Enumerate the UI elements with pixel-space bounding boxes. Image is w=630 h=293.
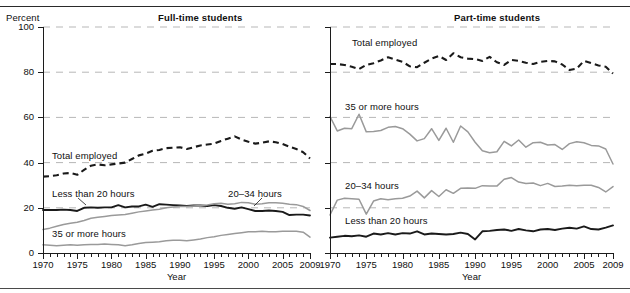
x-tick-1994 xyxy=(504,253,505,257)
x-tick-label-1970: 1970 xyxy=(32,259,53,270)
x-tick-1987 xyxy=(453,253,454,257)
x-tick-1989 xyxy=(468,253,469,257)
y-tick-mark-60 xyxy=(38,117,43,118)
x-tick-2006 xyxy=(289,253,290,257)
annotation-full-time-20-34-hours: 20–34 hours xyxy=(228,188,282,199)
x-tick-1986 xyxy=(153,253,154,257)
bottom-divider-rule xyxy=(0,288,630,289)
x-tick-1973 xyxy=(64,253,65,257)
x-tick-label-2005: 2005 xyxy=(272,259,293,270)
x-tick-2001 xyxy=(255,253,256,257)
x-tick-1978 xyxy=(388,253,389,257)
x-tick-1977 xyxy=(91,253,92,257)
x-tick-label-1990: 1990 xyxy=(465,259,486,270)
y-tick-mark-100 xyxy=(38,27,43,28)
x-tick-2004 xyxy=(577,253,578,257)
x-tick-label-1975: 1975 xyxy=(67,259,88,270)
annotation-full-time-35-or-more-hours: 35 or more hours xyxy=(52,228,126,239)
x-tick-1976 xyxy=(374,253,375,257)
x-tick-1983 xyxy=(424,253,425,257)
x-tick-1982 xyxy=(125,253,126,257)
chart-panel-full-time xyxy=(43,27,310,253)
y-tick-label-80: 80 xyxy=(4,66,34,77)
x-axis-line-part-time xyxy=(330,253,613,254)
x-tick-label-1980: 1980 xyxy=(392,259,413,270)
y-tick-label-40: 40 xyxy=(4,157,34,168)
annotation-full-time-total-employed: Total employed xyxy=(52,150,117,161)
x-tick-2004 xyxy=(276,253,277,257)
x-tick-1982 xyxy=(417,253,418,257)
x-tick-1971 xyxy=(50,253,51,257)
y-tick-mark-right-20 xyxy=(325,208,330,209)
x-tick-1992 xyxy=(194,253,195,257)
x-tick-1988 xyxy=(461,253,462,257)
x-tick-1986 xyxy=(446,253,447,257)
x-tick-1972 xyxy=(57,253,58,257)
x-tick-2008 xyxy=(303,253,304,257)
series-line-total-employed xyxy=(330,53,613,73)
x-tick-2007 xyxy=(598,253,599,257)
x-tick-1971 xyxy=(337,253,338,257)
x-tick-label-1980: 1980 xyxy=(101,259,122,270)
x-tick-1993 xyxy=(497,253,498,257)
x-tick-1974 xyxy=(70,253,71,257)
y-tick-mark-40 xyxy=(38,163,43,164)
x-tick-2008 xyxy=(606,253,607,257)
y-tick-mark-right-100 xyxy=(325,27,330,28)
x-tick-1979 xyxy=(105,253,106,257)
x-tick-1996 xyxy=(519,253,520,257)
annotation-part-time-less-than-20-hours: Less than 20 hours xyxy=(345,215,428,226)
x-tick-1997 xyxy=(228,253,229,257)
x-tick-label-2000: 2000 xyxy=(238,259,259,270)
panel-title-full-time: Full-time students xyxy=(158,12,243,23)
x-tick-1981 xyxy=(118,253,119,257)
series-line-less-than-20-hours xyxy=(43,204,310,215)
x-tick-2007 xyxy=(296,253,297,257)
x-tick-1998 xyxy=(533,253,534,257)
x-tick-label-2009: 2009 xyxy=(602,259,623,270)
plot-area-full-time xyxy=(43,27,310,253)
x-tick-label-2009: 2009 xyxy=(299,259,320,270)
series-line-less-than-20-hours xyxy=(330,225,613,239)
annotation-part-time-20-34-hours: 20–34 hours xyxy=(345,180,399,191)
annotation-part-time-total-employed: Total employed xyxy=(352,37,417,48)
y-tick-mark-right-60 xyxy=(325,117,330,118)
annotation-part-time-35-or-more-hours: 35 or more hours xyxy=(345,101,419,112)
x-tick-1999 xyxy=(242,253,243,257)
y-tick-mark-20 xyxy=(38,208,43,209)
x-tick-2001 xyxy=(555,253,556,257)
x-tick-1991 xyxy=(187,253,188,257)
x-axis-line-full-time xyxy=(43,253,310,254)
x-tick-2003 xyxy=(569,253,570,257)
y-tick-label-20: 20 xyxy=(4,202,34,213)
x-tick-2003 xyxy=(269,253,270,257)
x-tick-label-2000: 2000 xyxy=(537,259,558,270)
x-tick-label-1995: 1995 xyxy=(501,259,522,270)
x-tick-1992 xyxy=(490,253,491,257)
y-tick-mark-80 xyxy=(38,72,43,73)
x-tick-1993 xyxy=(200,253,201,257)
x-tick-1974 xyxy=(359,253,360,257)
x-tick-1979 xyxy=(395,253,396,257)
x-tick-1977 xyxy=(381,253,382,257)
plot-svg-full-time xyxy=(43,27,310,253)
x-tick-1989 xyxy=(173,253,174,257)
x-tick-1997 xyxy=(526,253,527,257)
x-tick-label-1975: 1975 xyxy=(356,259,377,270)
x-tick-1996 xyxy=(221,253,222,257)
y-axis-line-part-time xyxy=(330,27,331,253)
x-axis-title-part_time: Year xyxy=(462,271,481,282)
x-tick-label-1985: 1985 xyxy=(428,259,449,270)
x-tick-1972 xyxy=(345,253,346,257)
x-tick-2006 xyxy=(591,253,592,257)
x-tick-1973 xyxy=(352,253,353,257)
x-tick-1994 xyxy=(207,253,208,257)
y-tick-label-60: 60 xyxy=(4,111,34,122)
x-tick-label-1990: 1990 xyxy=(169,259,190,270)
annotation-full-time-less-than-20-hours: Less than 20 hours xyxy=(52,188,135,199)
y-axis-line-full-time xyxy=(43,27,44,253)
x-tick-1983 xyxy=(132,253,133,257)
x-tick-1976 xyxy=(84,253,85,257)
panel-title-part-time: Part-time students xyxy=(454,12,540,23)
y-tick-mark-right-80 xyxy=(325,72,330,73)
